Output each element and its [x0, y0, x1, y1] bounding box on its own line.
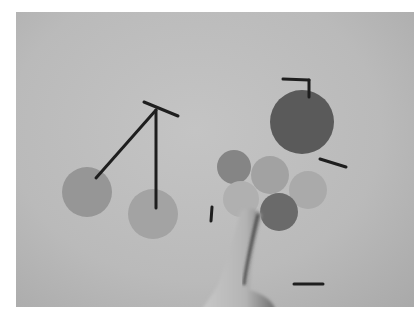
line-layer: [16, 12, 414, 307]
line-segment: [96, 110, 156, 178]
line-segment: [144, 102, 178, 116]
touch-surface-photo: [16, 12, 414, 307]
line-segment: [320, 159, 346, 167]
line-segment: [211, 207, 212, 221]
line-segment: [283, 79, 309, 80]
